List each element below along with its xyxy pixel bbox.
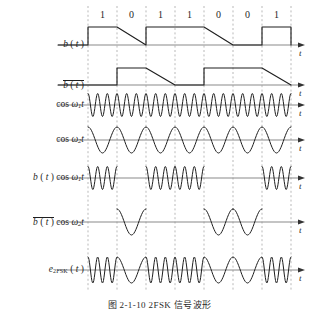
row-label-b-bar-of-t: b ( t ) — [63, 80, 84, 91]
bit-label: 1 — [88, 10, 117, 20]
row-label-cos-w1t: cos ω1t — [56, 100, 84, 110]
time-axes — [58, 42, 305, 272]
row-label-b-cos-w1t: b ( t ) cos ω1t — [33, 173, 84, 183]
bit-label: 0 — [117, 10, 146, 20]
bit-label: 1 — [262, 10, 291, 20]
bit-label: 1 — [175, 10, 204, 20]
row-label-bbar-cos-w2t: b ( t ) cos ω2t — [33, 217, 84, 228]
row-label-e2fsk-of-t: e2FSK ( t ) — [49, 265, 84, 275]
axis-label-t: t — [299, 144, 302, 153]
axis-label-t: t — [299, 49, 302, 58]
waveform-traces — [58, 27, 291, 283]
axis-label-t: t — [299, 109, 302, 118]
axis-label-t: t — [299, 274, 302, 283]
figure-2fsk-waveform: b ( t ) b ( t ) cos ω1t cos ω2t b ( t ) … — [0, 0, 319, 316]
axis-label-t: t — [299, 226, 302, 235]
bit-boundary-gridlines — [88, 6, 291, 292]
waveform-plot — [0, 0, 319, 300]
bit-label: 0 — [204, 10, 233, 20]
figure-caption: 图 2-1-10 2FSK 信号波形 — [0, 300, 319, 311]
row-label-cos-w2t: cos ω2t — [56, 135, 84, 145]
bit-label: 1 — [146, 10, 175, 20]
axis-label-t: t — [299, 182, 302, 191]
axis-label-t: t — [299, 89, 302, 98]
bit-label: 0 — [233, 10, 262, 20]
row-label-b-of-t: b ( t ) — [63, 40, 84, 50]
